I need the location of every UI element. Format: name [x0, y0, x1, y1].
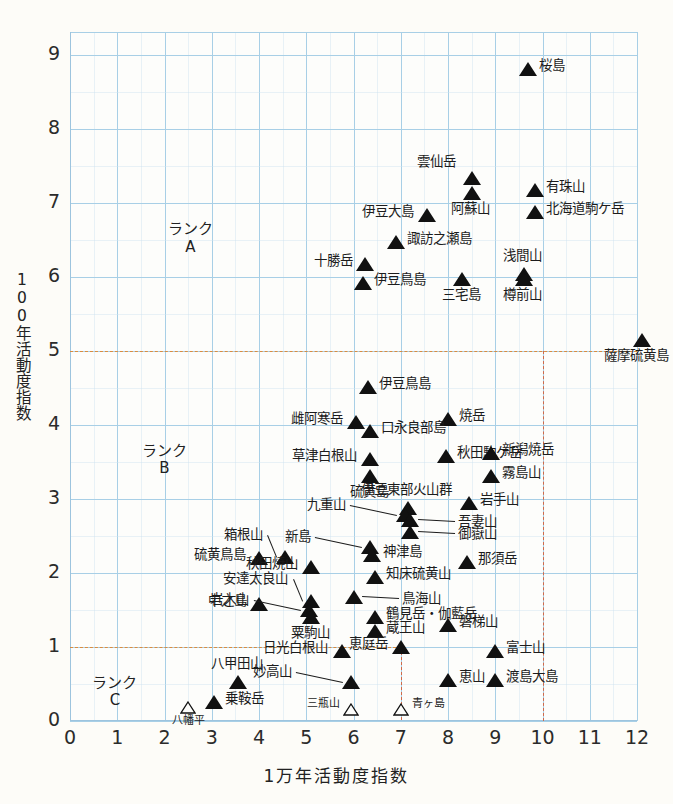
point-label: 知床硫黄山 — [386, 567, 451, 581]
y-tick-label: 2 — [34, 560, 60, 582]
filled-triangle-marker — [366, 570, 384, 584]
y-tick-label: 4 — [34, 412, 60, 434]
x-axis-line — [70, 720, 637, 721]
gridline-vertical-minor — [141, 32, 142, 721]
y-tick-label: 7 — [34, 190, 60, 212]
filled-triangle-marker — [354, 276, 372, 290]
filled-triangle-marker — [526, 183, 544, 197]
point-label: 妙高山 — [253, 665, 292, 679]
gridline-vertical-minor — [330, 32, 331, 721]
gridline-horizontal-minor — [70, 610, 637, 611]
filled-triangle-marker — [366, 610, 384, 624]
gridline-horizontal-minor — [70, 240, 637, 241]
gridline-vertical-minor — [235, 32, 236, 721]
point-label: 岩木山 — [210, 593, 249, 607]
plot-top-border — [70, 32, 637, 33]
filled-triangle-marker — [519, 62, 537, 76]
filled-triangle-marker — [302, 560, 320, 574]
filled-triangle-marker — [401, 525, 419, 539]
x-tick-label: 10 — [528, 726, 558, 748]
point-label: 磐梯山 — [459, 615, 498, 629]
plot-right-border — [637, 32, 638, 721]
x-axis-title: 1万年活動度指数 — [0, 762, 673, 787]
gridline-vertical-minor — [283, 32, 284, 721]
point-label: 神津島 — [383, 545, 422, 559]
gridline-horizontal-minor — [70, 388, 637, 389]
point-label: 御嶽山 — [458, 527, 497, 541]
y-tick-label: 9 — [34, 42, 60, 64]
filled-triangle-marker — [453, 272, 471, 286]
point-label: 岩手山 — [480, 493, 519, 507]
rank-region-label: ランク A — [160, 221, 220, 256]
gridline-horizontal-minor — [70, 314, 637, 315]
filled-triangle-marker — [526, 205, 544, 219]
x-tick-label: 1 — [102, 726, 132, 748]
rank-region-label: ランク B — [135, 443, 195, 478]
point-label: 草津白根山 — [292, 449, 357, 463]
gridline-vertical-minor — [519, 32, 520, 721]
rank-b-vertical-line — [543, 351, 544, 721]
point-label: 安達太良山 — [223, 572, 288, 586]
x-tick-label: 7 — [386, 726, 416, 748]
gridline-horizontal — [70, 573, 637, 574]
y-axis-line — [70, 32, 71, 721]
point-label: 薩摩硫黄島 — [604, 349, 669, 363]
point-label: 那須岳 — [478, 552, 517, 566]
filled-triangle-marker — [250, 597, 268, 611]
gridline-vertical — [590, 32, 591, 721]
point-label: 九重山 — [307, 498, 346, 512]
x-tick-label: 5 — [291, 726, 321, 748]
gridline-vertical-minor — [566, 32, 567, 721]
point-label: 粟駒山 — [291, 626, 330, 640]
gridline-vertical — [354, 32, 355, 721]
point-label: 恵山 — [459, 670, 485, 684]
point-label: 焼岳 — [459, 409, 485, 423]
point-label: 乗鞍岳 — [225, 692, 264, 706]
rank-region-label: ランク C — [85, 675, 145, 710]
x-tick-label: 3 — [197, 726, 227, 748]
gridline-vertical-minor — [188, 32, 189, 721]
filled-triangle-marker — [345, 590, 363, 604]
x-tick-label: 2 — [150, 726, 180, 748]
filled-triangle-marker — [458, 555, 476, 569]
filled-triangle-marker — [229, 675, 247, 689]
filled-triangle-marker — [363, 548, 381, 562]
filled-triangle-marker — [482, 446, 500, 460]
point-label: 日光白根山 — [263, 641, 328, 655]
filled-triangle-marker — [205, 695, 223, 709]
filled-triangle-marker — [515, 272, 533, 286]
filled-triangle-marker — [439, 673, 457, 687]
point-label: 恵庭岳 — [349, 637, 388, 651]
volcano-activity-scatter-chart: 0123456789101112 0123456789 1万年活動度指数 100… — [0, 0, 673, 804]
gridline-vertical — [165, 32, 166, 721]
x-tick-label: 12 — [622, 726, 652, 748]
gridline-vertical — [259, 32, 260, 721]
point-label: 樽前山 — [503, 288, 542, 302]
gridline-horizontal — [70, 499, 637, 500]
filled-triangle-marker — [387, 235, 405, 249]
y-tick-label: 6 — [34, 264, 60, 286]
point-label: 箱根山 — [224, 528, 263, 542]
rank-a-threshold-line — [70, 351, 637, 352]
open-triangle-marker — [180, 701, 196, 713]
y-axis-title: 100年活動度指数 — [4, 196, 30, 496]
point-label: 渡島大島 — [506, 670, 558, 684]
point-label: 鳥海山 — [402, 592, 441, 606]
point-label: 有珠山 — [546, 180, 585, 194]
filled-triangle-marker — [463, 186, 481, 200]
point-label: 諏訪之瀬島 — [407, 232, 472, 246]
point-label: 浅間山 — [503, 249, 542, 263]
y-tick-label: 0 — [34, 708, 60, 730]
point-label: 霧島山 — [502, 466, 541, 480]
point-label: 伊豆鳥島 — [379, 377, 431, 391]
x-tick-label: 4 — [244, 726, 274, 748]
point-label: 雲仙岳 — [417, 155, 456, 169]
filled-triangle-marker — [418, 208, 436, 222]
filled-triangle-marker — [361, 452, 379, 466]
filled-triangle-marker — [486, 644, 504, 658]
filled-triangle-marker — [356, 257, 374, 271]
x-tick-label: 6 — [339, 726, 369, 748]
gridline-horizontal — [70, 129, 637, 130]
filled-triangle-marker — [392, 640, 410, 654]
point-label: 三宅島 — [442, 288, 481, 302]
